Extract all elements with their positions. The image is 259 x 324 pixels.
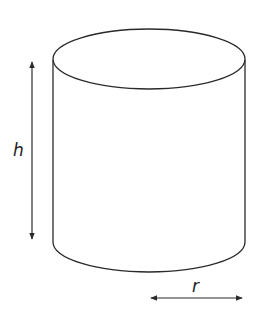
cylinder-bottom-arc	[53, 242, 245, 272]
radius-label: r	[192, 276, 200, 296]
cylinder-diagram: h r	[0, 0, 259, 324]
cylinder-top-ellipse	[53, 29, 245, 89]
cylinder-figure: h r	[0, 0, 259, 324]
height-label: h	[13, 140, 24, 160]
